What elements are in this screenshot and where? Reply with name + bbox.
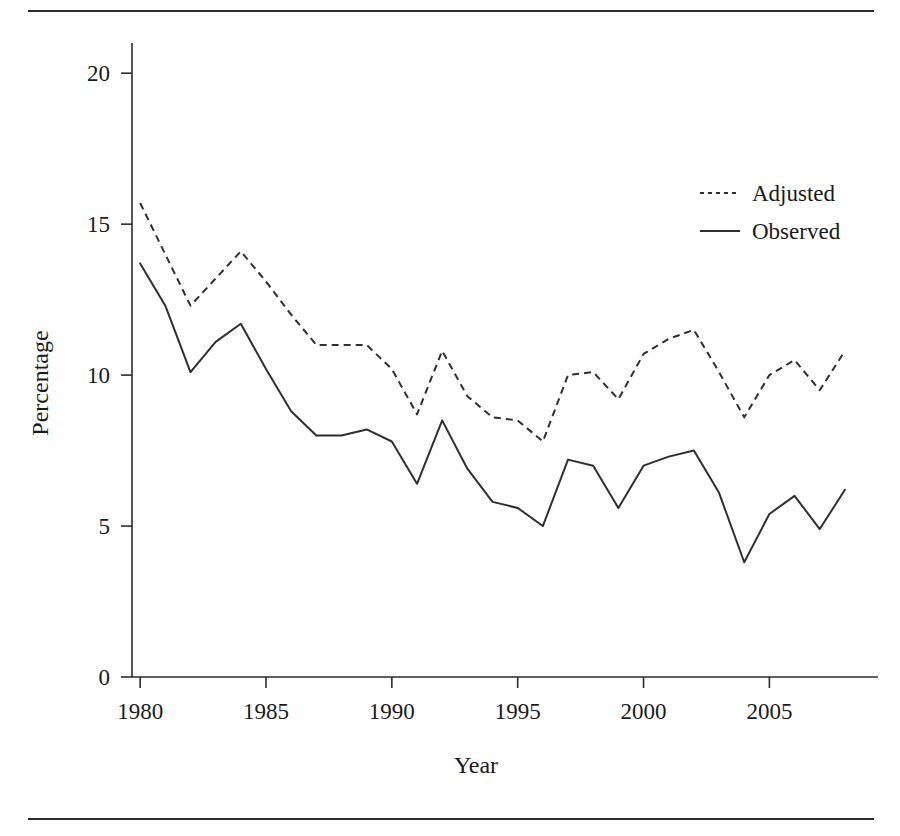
y-tick-group: 05101520 — [87, 61, 132, 690]
y-axis-title: Percentage — [27, 330, 53, 435]
y-tick-label-5: 5 — [99, 514, 111, 539]
legend: Adjusted Observed — [700, 181, 841, 244]
x-tick-label-1985: 1985 — [243, 699, 289, 724]
x-tick-group: 198019851990199520002005 — [117, 677, 792, 724]
y-tick-label-0: 0 — [99, 665, 111, 690]
x-tick-label-2000: 2000 — [621, 699, 667, 724]
x-tick-label-2005: 2005 — [746, 699, 792, 724]
x-tick-label-1980: 1980 — [117, 699, 163, 724]
series-line-observed — [140, 263, 845, 562]
y-axis: 05101520 — [87, 43, 132, 690]
series-group — [140, 203, 845, 562]
x-tick-label-1995: 1995 — [495, 699, 541, 724]
x-tick-label-1990: 1990 — [369, 699, 415, 724]
line-chart: 05101520 198019851990199520002005 Adjust… — [0, 18, 900, 808]
legend-label-adjusted: Adjusted — [752, 181, 836, 206]
y-tick-label-10: 10 — [87, 363, 110, 388]
legend-label-observed: Observed — [752, 219, 841, 244]
series-line-adjusted — [140, 203, 845, 442]
chart-svg: 05101520 198019851990199520002005 Adjust… — [0, 18, 900, 808]
bottom-horizontal-rule — [28, 818, 874, 820]
y-tick-label-20: 20 — [87, 61, 110, 86]
x-axis-title: Year — [454, 752, 498, 778]
x-axis: 198019851990199520002005 — [117, 677, 878, 724]
figure-frame: 05101520 198019851990199520002005 Adjust… — [0, 0, 900, 836]
y-tick-label-15: 15 — [87, 212, 110, 237]
top-horizontal-rule — [28, 10, 874, 12]
